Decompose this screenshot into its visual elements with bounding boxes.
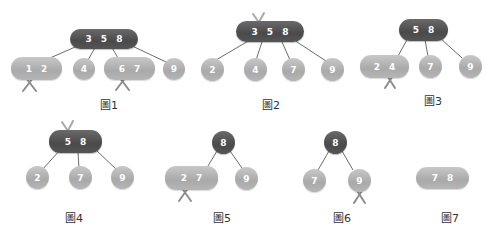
node-keys: 4: [249, 65, 261, 75]
node-keys: 5 8: [410, 25, 438, 35]
node-keys: 8: [329, 138, 341, 148]
node-keys: 9: [240, 174, 252, 184]
figure-caption: 圖2: [262, 96, 280, 112]
node-keys: 9: [326, 65, 338, 75]
leaf-node: 6 7: [104, 57, 155, 80]
root-node: 5 8: [49, 130, 102, 153]
leaf-node: 2: [26, 166, 49, 189]
leaf-node: 7: [303, 169, 326, 192]
leaf-node: 7: [69, 166, 92, 189]
node-keys: 7: [424, 62, 436, 72]
leaf-node: 7: [419, 55, 442, 78]
root-node: 8: [212, 131, 235, 154]
node-keys: 7: [74, 173, 86, 183]
leaf-node: 2 4: [360, 55, 409, 78]
figure-caption: 圖7: [441, 209, 459, 225]
node-keys: 5 8: [62, 137, 90, 147]
node-keys: 9: [168, 64, 180, 74]
leaf-node: 9: [235, 167, 258, 190]
leaf-node: 9: [459, 55, 482, 78]
leaf-node: 4: [244, 58, 267, 81]
figure-caption: 圖6: [333, 209, 351, 225]
node-keys: 2: [31, 173, 43, 183]
node-keys: 4: [78, 64, 90, 74]
leaf-node: 9: [321, 58, 344, 81]
leaf-node: 2 7: [165, 166, 218, 190]
node-keys: 8: [217, 138, 229, 148]
leaf-node: 7: [282, 58, 305, 81]
node-keys: 7 8: [429, 173, 457, 183]
node-keys: 6 7: [116, 64, 144, 74]
leaf-node: 2: [201, 58, 224, 81]
figure-caption: 圖4: [65, 209, 83, 225]
root-node: 8: [324, 131, 347, 154]
root-node: 3 5 8: [70, 29, 138, 49]
node-keys: 2: [206, 65, 218, 75]
node-keys: 7: [287, 65, 299, 75]
node-keys: 9: [353, 176, 365, 186]
node-keys: 2 4: [371, 62, 399, 72]
node-keys: 3 5 8: [248, 27, 291, 37]
figure-caption: 圖1: [100, 96, 118, 112]
root-node: 3 5 8: [236, 21, 304, 42]
leaf-node: 9: [163, 58, 185, 80]
node-keys: 9: [116, 173, 128, 183]
leaf-node: 9: [348, 169, 371, 192]
node-keys: 9: [464, 62, 476, 72]
leaf-node: 4: [73, 58, 95, 80]
figure-caption: 圖3: [424, 92, 442, 108]
figure-caption: 圖5: [213, 209, 231, 225]
leaf-node: 9: [111, 166, 134, 189]
leaf-node: 1 2: [11, 57, 62, 80]
node-keys: 3 5 8: [82, 34, 125, 44]
leaf-node: 7 8: [416, 167, 469, 189]
root-node: 5 8: [399, 19, 448, 41]
node-keys: 2 7: [178, 173, 206, 183]
node-keys: 1 2: [23, 64, 51, 74]
node-keys: 7: [308, 176, 320, 186]
